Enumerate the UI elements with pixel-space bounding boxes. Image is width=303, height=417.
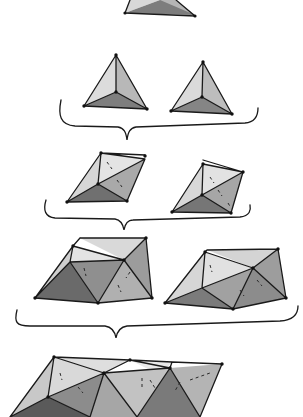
cluster-level4-right [163, 247, 287, 310]
cluster-level3-right [170, 160, 244, 215]
strip-level5 [10, 355, 224, 417]
cluster-level3-left [65, 151, 146, 203]
tetrahedron-level1 [123, 0, 196, 18]
tetrahedra-sketch [0, 0, 303, 417]
tetrahedron-level2-right [169, 60, 233, 115]
tetrahedron-level2-left [82, 53, 148, 110]
curly-brace-3 [16, 306, 298, 338]
cluster-level4-left [33, 236, 153, 304]
